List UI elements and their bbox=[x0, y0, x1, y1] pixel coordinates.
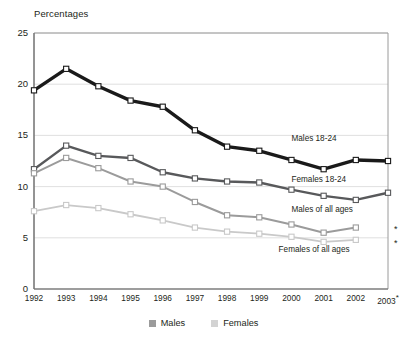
data-point-marker bbox=[128, 98, 133, 103]
males-all-ages-label: Males of all ages bbox=[291, 205, 352, 214]
data-point-marker bbox=[160, 184, 165, 189]
data-point-marker bbox=[289, 157, 294, 162]
females-18-24-label: Females 18-24 bbox=[291, 175, 346, 184]
data-point-marker bbox=[257, 231, 262, 236]
data-point-marker bbox=[128, 179, 133, 184]
x-axis-tick-label: 2002 bbox=[339, 293, 373, 303]
males-18-24-label: Males 18-24 bbox=[291, 134, 336, 143]
data-point-marker bbox=[31, 171, 36, 176]
data-point-marker bbox=[128, 212, 133, 217]
data-point-marker bbox=[289, 234, 294, 239]
x-axis-tick-label: 2001 bbox=[307, 293, 341, 303]
legend-swatch-icon bbox=[149, 320, 156, 327]
legend-label: Males bbox=[161, 318, 186, 328]
data-point-marker bbox=[96, 166, 101, 171]
data-point-marker bbox=[128, 155, 133, 160]
data-point-marker bbox=[257, 180, 262, 185]
data-point-marker bbox=[321, 167, 326, 172]
data-point-marker bbox=[353, 157, 358, 162]
data-point-marker bbox=[224, 213, 229, 218]
x-axis-tick-label: 1999 bbox=[242, 293, 276, 303]
y-axis-tick-label: 5 bbox=[2, 232, 28, 243]
data-point-marker bbox=[64, 143, 69, 148]
data-point-marker bbox=[160, 170, 165, 175]
legend-item: Males bbox=[149, 318, 186, 328]
data-point-marker bbox=[96, 153, 101, 158]
data-point-marker bbox=[385, 158, 390, 163]
data-point-marker bbox=[353, 237, 358, 242]
data-point-marker bbox=[160, 104, 165, 109]
data-point-marker bbox=[96, 206, 101, 211]
x-axis-tick-label: 1998 bbox=[210, 293, 244, 303]
x-axis-tick-label: 2003* bbox=[371, 293, 405, 306]
x-axis-footnote-star: * bbox=[396, 293, 399, 302]
data-point-marker bbox=[321, 193, 326, 198]
data-point-marker bbox=[321, 230, 326, 235]
data-point-marker bbox=[192, 199, 197, 204]
y-axis-tick-label: 20 bbox=[2, 78, 28, 89]
y-axis-tick-label: 25 bbox=[2, 27, 28, 38]
data-point-marker bbox=[353, 197, 358, 202]
data-point-marker bbox=[321, 239, 326, 244]
asterisk-males-all-ages-2003: * bbox=[394, 225, 398, 234]
data-point-marker bbox=[31, 209, 36, 214]
x-axis-tick-label: 1993 bbox=[49, 293, 83, 303]
x-axis-tick-label: 2000 bbox=[274, 293, 308, 303]
x-axis-tick-label: 1997 bbox=[178, 293, 212, 303]
data-point-marker bbox=[64, 155, 69, 160]
chart-legend: MalesFemales bbox=[0, 318, 407, 328]
data-point-marker bbox=[385, 190, 390, 195]
data-point-marker bbox=[64, 202, 69, 207]
data-point-marker bbox=[224, 229, 229, 234]
asterisk-females-all-ages-2003: * bbox=[394, 239, 398, 248]
data-point-marker bbox=[192, 176, 197, 181]
data-point-marker bbox=[64, 66, 69, 71]
data-point-marker bbox=[96, 84, 101, 89]
data-point-marker bbox=[353, 225, 358, 230]
data-point-marker bbox=[160, 218, 165, 223]
series-line bbox=[34, 158, 356, 233]
y-axis-tick-label: 10 bbox=[2, 181, 28, 192]
data-point-marker bbox=[289, 187, 294, 192]
data-point-marker bbox=[289, 222, 294, 227]
x-axis-tick-label: 1994 bbox=[81, 293, 115, 303]
x-axis-tick-label: 1992 bbox=[17, 293, 51, 303]
x-axis-tick-label: 1996 bbox=[146, 293, 180, 303]
legend-label: Females bbox=[223, 318, 258, 328]
chart-container: Percentages 0510152025 19921993199419951… bbox=[0, 0, 407, 347]
data-point-marker bbox=[257, 215, 262, 220]
legend-swatch-icon bbox=[211, 320, 218, 327]
series-line bbox=[34, 146, 388, 200]
data-point-marker bbox=[192, 128, 197, 133]
females-all-ages-label: Females of all ages bbox=[279, 245, 350, 254]
data-point-marker bbox=[224, 144, 229, 149]
data-point-marker bbox=[224, 179, 229, 184]
data-point-marker bbox=[31, 88, 36, 93]
x-axis-tick-label: 1995 bbox=[114, 293, 148, 303]
legend-item: Females bbox=[211, 318, 258, 328]
data-point-marker bbox=[192, 225, 197, 230]
y-axis-tick-label: 15 bbox=[2, 129, 28, 140]
data-point-marker bbox=[257, 148, 262, 153]
